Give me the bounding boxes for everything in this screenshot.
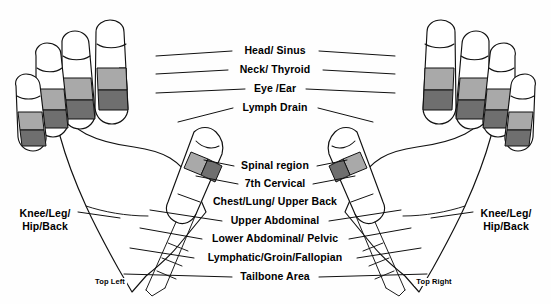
- leader-neck-thyroid-right: [323, 70, 395, 74]
- left-finger-2-band-dark: [65, 100, 95, 119]
- label-knee-leg-hip-back-right: Knee/Leg/ Hip/Back: [480, 207, 531, 233]
- right-hand-crease-2: [369, 258, 389, 266]
- label-lower-abdominal-pelvic: Lower Abdominal/ Pelvic: [209, 233, 341, 244]
- leader-neck-thyroid-left: [156, 70, 228, 74]
- leader-eye-ear-left: [156, 89, 245, 93]
- label-upper-abdominal: Upper Abdominal: [228, 215, 323, 226]
- label-knee-leg-hip-back-left: Knee/Leg/ Hip/Back: [19, 207, 70, 233]
- left-finger-4-band-light: [18, 112, 44, 130]
- left-finger-1-band-dark: [98, 90, 128, 110]
- label-lymph-drain: Lymph Drain: [240, 102, 311, 113]
- right-hand: [328, 20, 535, 296]
- right-finger-2-band-light: [458, 78, 488, 100]
- right-finger-1-band-dark: [423, 90, 453, 110]
- left-finger-4-band-dark: [20, 130, 46, 146]
- leader-head-sinus-right: [319, 51, 395, 56]
- left-hand-crease-2: [162, 258, 182, 266]
- label-neck-thyroid: Neck/ Thyroid: [237, 64, 314, 75]
- left-hand: [16, 20, 223, 296]
- label-head-sinus: Head/ Sinus: [241, 45, 308, 56]
- leader-head-sinus-left: [156, 51, 232, 56]
- label-top-right: Top Right: [414, 278, 453, 286]
- right-finger-2-band-dark: [456, 100, 486, 119]
- label-chest-lung-upper-back: Chest/Lung/ Upper Back: [210, 196, 340, 207]
- leader-eye-ear-right: [306, 89, 395, 93]
- leader-lymph-drain-left: [178, 108, 233, 122]
- left-finger-1-band-light-main: [97, 68, 127, 90]
- label-knee-left-line2: Hip/Back: [19, 220, 70, 233]
- right-finger-4-band-light: [507, 112, 533, 130]
- label-lymphatic-groin-fallopian: Lymphatic/Groin/Fallopian: [205, 252, 346, 263]
- label-tailbone-area: Tailbone Area: [237, 271, 313, 282]
- right-hand-wrist: [386, 288, 405, 296]
- label-knee-right-line2: Hip/Back: [480, 220, 531, 233]
- label-7th-cervical: 7th Cervical: [242, 178, 309, 189]
- right-finger-4-band-dark: [505, 130, 531, 146]
- reflexology-chart: Head/ Sinus Neck/ Thyroid Eye /Ear Lymph…: [0, 0, 551, 304]
- left-finger-2-band-light: [63, 78, 93, 100]
- leader-lymph-drain-right: [318, 108, 373, 122]
- label-top-left: Top Left: [93, 278, 127, 286]
- label-knee-left-line1: Knee/Leg/: [19, 207, 70, 220]
- label-knee-right-line1: Knee/Leg/: [480, 207, 531, 220]
- right-finger-1-band-light: [424, 68, 454, 90]
- left-hand-wrist: [146, 288, 165, 296]
- label-spinal-region: Spinal region: [238, 160, 312, 171]
- label-eye-ear: Eye /Ear: [251, 83, 299, 94]
